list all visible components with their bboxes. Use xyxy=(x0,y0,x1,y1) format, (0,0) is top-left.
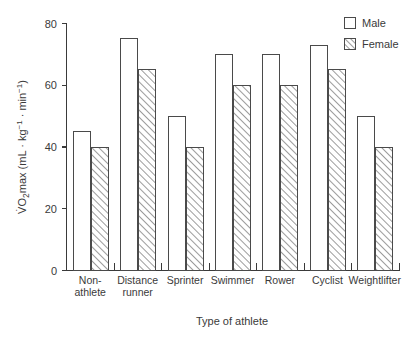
bar-female-non-athlete xyxy=(92,147,109,271)
bar-female-cyclist xyxy=(329,70,346,271)
x-axis-label-line: runner xyxy=(122,286,153,298)
chart-svg: 0 20 40 60 80 V̇O2max (mL · kg−1 · min−1… xyxy=(0,0,411,341)
x-axis-label-sprinter: Sprinter xyxy=(167,274,204,286)
x-axis-label-line: athlete xyxy=(74,286,106,298)
x-axis-title: Type of athlete xyxy=(196,315,268,327)
bar-female-distance-runner xyxy=(139,70,156,271)
bar-male-distance-runner xyxy=(121,39,138,271)
x-axis-label-line: Sprinter xyxy=(167,274,204,286)
x-axis-label-cyclist: Cyclist xyxy=(312,274,343,286)
legend-label-female: Female xyxy=(362,38,399,50)
x-axis-label-non-athlete: Non-athlete xyxy=(74,274,106,298)
y-axis-ticks: 0 20 40 60 80 xyxy=(45,18,67,277)
x-axis-label-swimmer: Swimmer xyxy=(211,274,255,286)
bar-male-rower xyxy=(263,54,280,270)
x-axis-label-line: Rower xyxy=(265,274,296,286)
bar-male-sprinter xyxy=(169,116,186,270)
x-axis-label-line: Cyclist xyxy=(312,274,343,286)
ylabel-close: ) xyxy=(16,80,28,84)
bar-female-sprinter xyxy=(187,147,204,271)
x-axis-label-distance-runner: Distancerunner xyxy=(117,274,158,298)
bar-male-non-athlete xyxy=(74,132,91,271)
x-axis-label-line: Non- xyxy=(79,274,102,286)
x-axis-label-line: Weightlifter xyxy=(349,274,402,286)
x-axis-label-line: Swimmer xyxy=(211,274,255,286)
vo2max-bar-chart: 0 20 40 60 80 V̇O2max (mL · kg−1 · min−1… xyxy=(0,0,411,341)
x-axis-label-line: Distance xyxy=(117,274,158,286)
bar-male-cyclist xyxy=(311,45,328,270)
bar-male-swimmer xyxy=(216,54,233,270)
ylabel-mid: · min xyxy=(16,93,28,121)
y-tick-label-40: 40 xyxy=(45,141,57,153)
legend-swatch-female-hatched-square-icon xyxy=(345,39,356,50)
y-axis-title: V̇O2max (mL · kg−1 · min−1) xyxy=(15,80,31,214)
legend-swatch-male-open-square-icon xyxy=(345,18,356,29)
y-tick-label-60: 60 xyxy=(45,79,57,91)
ylabel-max: max (mL · kg xyxy=(16,130,28,194)
bar-male-weightlifter xyxy=(358,116,375,270)
bar-female-swimmer xyxy=(234,85,251,270)
legend-label-male: Male xyxy=(362,17,386,29)
x-axis-label-weightlifter: Weightlifter xyxy=(349,274,402,286)
svg-text:V̇O2max (mL · kg−1 · min−1): V̇O2max (mL · kg−1 · min−1) xyxy=(15,80,31,214)
bar-female-rower xyxy=(281,85,298,270)
x-axis-label-rower: Rower xyxy=(265,274,296,286)
y-tick-label-20: 20 xyxy=(45,203,57,215)
bars-layer xyxy=(74,39,393,271)
y-tick-label-80: 80 xyxy=(45,18,57,30)
legend: Male Female xyxy=(345,17,399,50)
bar-female-weightlifter xyxy=(376,147,393,271)
y-tick-label-0: 0 xyxy=(51,265,57,277)
